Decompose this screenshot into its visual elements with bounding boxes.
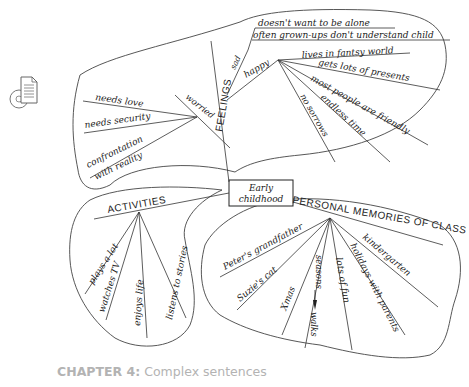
- happy-item: lives in fantsy world: [302, 45, 395, 60]
- activities-branch: ACTIVITIES plays a lot watches TV enjoys…: [85, 193, 229, 338]
- activities-item: listens to stories: [164, 244, 190, 320]
- chapter-caption: CHAPTER 4: Complex sentences: [57, 364, 267, 379]
- memories-item: Peter's grandfather: [220, 221, 305, 272]
- chapter-number: CHAPTER 4:: [57, 364, 140, 379]
- memories-item: walks: [309, 312, 319, 337]
- sad-item: doesn't want to be alone: [258, 18, 370, 28]
- memories-item: Xmas: [278, 285, 297, 313]
- feelings-label: FEELINGS: [213, 78, 233, 133]
- center-line-2: childhood: [239, 194, 284, 204]
- chapter-title: Complex sentences: [144, 364, 267, 379]
- memories-item: seasons: [314, 255, 324, 289]
- memories-branch: PERSONAL MEMORIES OF CLASS Peter's grand…: [220, 194, 467, 350]
- sad-label: sad: [229, 54, 243, 70]
- mind-map: Early childhood FEELINGS sad doesn't wan…: [0, 0, 469, 387]
- sad-item: often grown-ups don't understand child: [253, 30, 434, 40]
- memories-item: Suzie's cat: [235, 264, 279, 303]
- feelings-branch: FEELINGS sad doesn't want to be alone of…: [83, 18, 450, 182]
- center-line-1: Early: [248, 183, 274, 193]
- memories-item: lots of fun: [334, 257, 352, 304]
- activities-item: enjoys life: [132, 279, 145, 326]
- worried-label: worried: [184, 92, 217, 121]
- center-node[interactable]: Early childhood: [229, 180, 293, 206]
- worried-item: needs security: [84, 111, 152, 130]
- activities-label: ACTIVITIES: [106, 194, 166, 215]
